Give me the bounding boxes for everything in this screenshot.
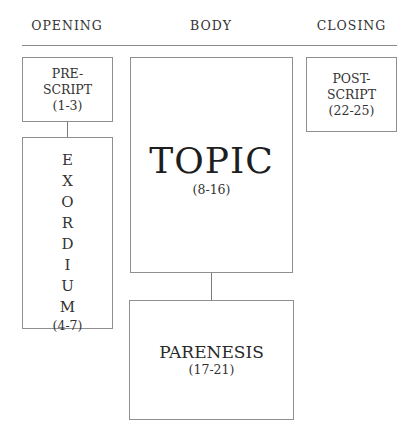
- exordium-letter: O: [61, 192, 73, 213]
- prescript-box: PRE- SCRIPT (1-3): [22, 57, 113, 122]
- parenesis-range: (17-21): [189, 362, 235, 378]
- prescript-line2: SCRIPT: [43, 82, 92, 98]
- topic-box: TOPIC (8-16): [130, 57, 293, 273]
- exordium-letter: X: [62, 171, 73, 192]
- topic-parenesis-connector: [211, 273, 212, 300]
- postscript-range: (22-25): [329, 103, 375, 119]
- exordium-letter: D: [61, 234, 73, 255]
- header-body: BODY: [130, 18, 292, 33]
- exordium-letter: I: [65, 255, 71, 276]
- exordium-letter: E: [62, 150, 73, 171]
- parenesis-label: PARENESIS: [159, 342, 264, 362]
- exordium-letter: U: [61, 276, 74, 297]
- topic-range: (8-16): [193, 182, 231, 198]
- header-closing: CLOSING: [304, 18, 399, 33]
- postscript-line1: POST-: [332, 71, 370, 87]
- topic-label: TOPIC: [149, 142, 274, 180]
- postscript-line2: SCRIPT: [327, 87, 376, 103]
- parenesis-box: PARENESIS (17-21): [129, 300, 294, 420]
- header-divider: [22, 45, 397, 46]
- exordium-letter: R: [62, 213, 73, 234]
- exordium-box: E X O R D I U M (4-7): [22, 137, 113, 329]
- exordium-letter: M: [60, 297, 75, 318]
- prescript-range: (1-3): [53, 98, 83, 114]
- prescript-exordium-connector: [67, 122, 68, 137]
- prescript-line1: PRE-: [52, 66, 83, 82]
- exordium-range: (4-7): [53, 318, 83, 334]
- postscript-box: POST- SCRIPT (22-25): [306, 57, 397, 132]
- header-opening: OPENING: [22, 18, 112, 33]
